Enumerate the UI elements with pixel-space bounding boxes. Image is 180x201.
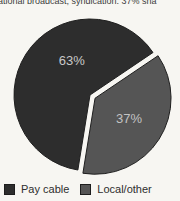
- figure-caption: ational broadcast, syndication: 37% sha: [0, 0, 180, 6]
- local-other-swatch-icon: [80, 184, 91, 195]
- legend-item-local-other: Local/other: [80, 183, 151, 195]
- legend-label-local-other: Local/other: [97, 183, 151, 195]
- legend-item-pay-cable: Pay cable: [4, 183, 69, 195]
- figure-scan: ational broadcast, syndication: 37% sha …: [0, 0, 180, 201]
- legend-label-pay-cable: Pay cable: [21, 183, 69, 195]
- chart-legend: Pay cable Local/other: [4, 183, 152, 195]
- pie-chart: 63%37%: [0, 12, 180, 180]
- pie-slices: 63%37%: [14, 19, 171, 174]
- slice-value-label: 63%: [59, 53, 85, 68]
- slice-value-label: 37%: [116, 111, 142, 126]
- pay-cable-swatch-icon: [4, 184, 15, 195]
